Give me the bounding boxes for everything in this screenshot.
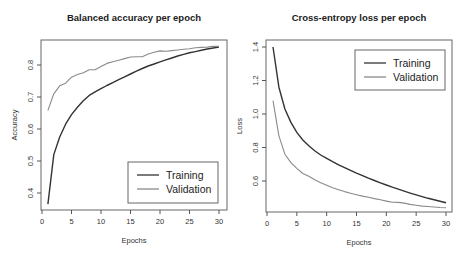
y-tick-label: 0.7 — [26, 92, 35, 102]
x-tick-label: 5 — [69, 217, 73, 226]
legend-label-validation: Validation — [393, 71, 438, 83]
loss-chart-panel: Cross-entropy loss per epoch051015202530… — [236, 0, 472, 261]
legend-label-training: Training — [393, 57, 431, 69]
loss-chart: Cross-entropy loss per epoch051015202530… — [236, 0, 473, 261]
y-axis: 0.40.50.60.70.8 — [26, 60, 41, 198]
y-tick-label: 0.6 — [26, 124, 35, 134]
x-tick-label: 15 — [352, 219, 360, 228]
x-axis: 051015202530 — [265, 212, 450, 228]
x-tick-label: 5 — [295, 219, 299, 228]
y-tick-label: 0.8 — [26, 60, 35, 70]
x-tick-label: 25 — [185, 217, 193, 226]
x-axis-label: Epochs — [346, 238, 371, 247]
y-tick-label: 0.8 — [251, 142, 260, 152]
y-tick-label: 1.4 — [251, 42, 260, 52]
series-line-validation — [48, 46, 219, 110]
x-tick-label: 10 — [322, 219, 330, 228]
y-axis-label: Loss — [236, 118, 244, 134]
y-tick-label: 1.2 — [251, 75, 260, 85]
legend-label-validation: Validation — [166, 183, 211, 195]
chart-title: Balanced accuracy per epoch — [67, 12, 201, 23]
chart-title: Cross-entropy loss per epoch — [292, 12, 427, 23]
y-tick-label: 0.6 — [251, 176, 260, 186]
legend-label-training: Training — [166, 169, 204, 181]
y-tick-label: 1.0 — [251, 109, 260, 119]
x-tick-label: 30 — [215, 217, 223, 226]
legend: TrainingValidation — [128, 162, 218, 203]
legend: TrainingValidation — [355, 50, 445, 90]
x-tick-label: 30 — [442, 219, 450, 228]
accuracy-chart: Balanced accuracy per epoch051015202530E… — [0, 0, 236, 261]
y-axis: 0.60.81.01.21.4 — [251, 42, 266, 186]
x-tick-label: 20 — [156, 217, 164, 226]
accuracy-chart-panel: Balanced accuracy per epoch051015202530E… — [0, 0, 236, 261]
x-tick-label: 0 — [265, 219, 269, 228]
x-axis-label: Epochs — [121, 236, 146, 245]
x-tick-label: 10 — [97, 217, 105, 226]
y-tick-label: 0.5 — [26, 156, 35, 166]
legend-box — [355, 50, 445, 90]
x-tick-label: 20 — [382, 219, 390, 228]
x-tick-label: 0 — [40, 217, 44, 226]
y-tick-label: 0.4 — [26, 188, 35, 198]
x-tick-label: 25 — [412, 219, 420, 228]
series-line-validation — [273, 101, 446, 208]
x-tick-label: 15 — [126, 217, 134, 226]
x-axis: 051015202530 — [40, 210, 223, 226]
y-axis-label: Accuracy — [10, 109, 19, 140]
